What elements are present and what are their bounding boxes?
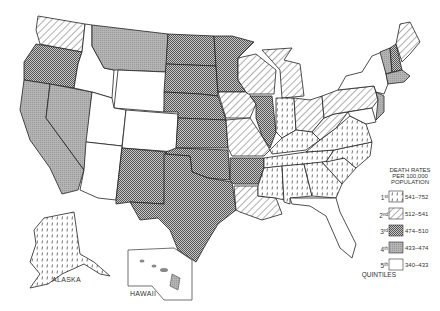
legend-swatch-gray bbox=[389, 242, 403, 253]
state-arizona[interactable] bbox=[80, 142, 122, 200]
legend-swatch-dashed bbox=[389, 191, 403, 202]
hawaii-island-oahu[interactable] bbox=[152, 265, 157, 268]
legend-item-1st: 1st 541–752 bbox=[381, 191, 429, 202]
state-north-dakota[interactable] bbox=[166, 34, 216, 66]
hawaii-label: HAWAII bbox=[130, 290, 156, 297]
hawaii-inset: HAWAII bbox=[128, 248, 192, 300]
alaska-inset: ALASKA bbox=[30, 212, 110, 288]
legend-swatch-blank bbox=[389, 259, 403, 270]
legend-quintile-label: 3rd bbox=[380, 228, 388, 235]
legend-quintile-label: 1st bbox=[381, 194, 389, 201]
state-wyoming[interactable] bbox=[114, 70, 166, 112]
us-death-rate-map: ALASKA HAWAII DEATH RATES PER 100,000 PO… bbox=[0, 0, 440, 311]
state-florida[interactable] bbox=[290, 198, 356, 258]
state-new-mexico[interactable] bbox=[116, 148, 166, 204]
legend-title-line-3: POPULATION bbox=[391, 179, 429, 185]
contiguous-states bbox=[20, 16, 420, 262]
hawaii-island-big[interactable] bbox=[170, 274, 180, 290]
legend-range: 474–510 bbox=[405, 228, 429, 234]
state-maine[interactable] bbox=[396, 22, 420, 62]
legend-swatch-diagonal bbox=[389, 208, 403, 219]
state-arkansas[interactable] bbox=[230, 158, 264, 184]
legend-range: 340–433 bbox=[405, 262, 429, 268]
state-new-jersey[interactable] bbox=[376, 92, 384, 120]
legend-range: 433–474 bbox=[405, 245, 429, 251]
legend-quintile-label: 5th bbox=[381, 262, 389, 269]
legend-quintile-label: 2nd bbox=[379, 212, 388, 219]
legend-item-4th: 4th 433–474 bbox=[381, 242, 429, 253]
legend: DEATH RATES PER 100,000 POPULATION 1st 5… bbox=[362, 167, 431, 279]
legend-swatch-crosshatch bbox=[389, 225, 403, 236]
legend-range: 541–752 bbox=[405, 194, 429, 200]
alaska-label: ALASKA bbox=[52, 276, 81, 283]
legend-quintile-label: 4th bbox=[381, 246, 389, 253]
state-south-dakota[interactable] bbox=[164, 64, 218, 96]
state-kansas[interactable] bbox=[176, 118, 228, 148]
legend-item-5th: 5th 340–433 bbox=[381, 259, 429, 270]
state-montana[interactable] bbox=[92, 25, 168, 72]
legend-item-2nd: 2nd 512–541 bbox=[379, 208, 429, 219]
hawaii-island-maui[interactable] bbox=[160, 268, 168, 272]
state-colorado[interactable] bbox=[122, 110, 178, 152]
legend-range: 512–541 bbox=[405, 211, 429, 217]
hawaii-island-kauai[interactable] bbox=[140, 260, 145, 263]
state-wisconsin[interactable] bbox=[238, 54, 276, 94]
legend-item-3rd: 3rd 474–510 bbox=[380, 225, 429, 236]
legend-footer: QUINTILES bbox=[362, 271, 397, 279]
